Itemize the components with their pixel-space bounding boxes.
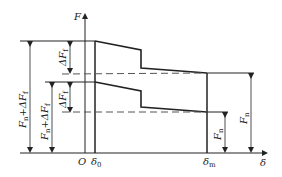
right-outer-label: Fn xyxy=(238,112,251,125)
upper-delta-label: ΔFf xyxy=(57,48,70,67)
delta-axis-label: δ xyxy=(260,157,266,168)
upper-dashed-line xyxy=(62,73,207,74)
inner-left-label: Fn+ΔFf xyxy=(39,102,52,141)
outer-left-label: Fn+ΔFf xyxy=(17,90,30,129)
axes xyxy=(20,16,265,153)
right-inner-label: Fn xyxy=(212,128,225,141)
force-displacement-diagram: F δ O δ0 δm Fn+ΔFf Fn+ΔFf ΔFf ΔFf Fn Fn xyxy=(0,0,282,177)
f-axis-label: F xyxy=(73,11,82,22)
lower-curve xyxy=(95,82,207,112)
lower-delta-label: ΔFf xyxy=(57,90,70,109)
deltam-label: δm xyxy=(203,156,216,169)
delta0-label: δ0 xyxy=(91,156,102,169)
upper-curve xyxy=(95,41,207,73)
origin-label: O xyxy=(78,156,86,167)
